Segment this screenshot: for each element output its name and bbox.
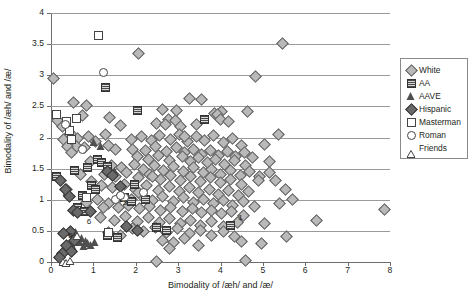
gridline (51, 13, 390, 14)
data-point (76, 118, 85, 127)
data-point (53, 78, 62, 87)
data-point (254, 206, 263, 215)
data-point (264, 144, 273, 153)
x-tick-mark (348, 262, 349, 266)
data-point (165, 124, 174, 133)
data-point (103, 207, 112, 216)
y-tick-label: 0 (0, 257, 44, 266)
data-point (228, 121, 237, 130)
data-point (86, 197, 95, 206)
data-point (201, 99, 210, 108)
diamond-light-icon (405, 64, 416, 75)
data-point (77, 212, 86, 221)
legend-item-hispanic[interactable]: Hispanic (405, 102, 463, 115)
data-point (278, 134, 287, 143)
data-point (258, 180, 267, 189)
data-point (316, 220, 325, 229)
filled-triangle-icon (405, 90, 416, 101)
x-tick-label: 3 (163, 266, 193, 275)
y-tick-mark (47, 200, 51, 201)
filled-diamond-icon (405, 103, 416, 114)
data-point (117, 237, 126, 246)
x-tick-mark (305, 262, 306, 266)
open-triangle-icon (405, 142, 416, 153)
data-point (198, 245, 207, 254)
data-point (95, 189, 104, 198)
open-circle-icon (405, 129, 416, 140)
legend-label: Friends (419, 143, 447, 153)
x-tick-mark (390, 262, 391, 266)
x-tick-label: 6 (290, 266, 320, 275)
data-point (292, 199, 301, 208)
data-point (98, 35, 107, 44)
y-tick-mark (47, 231, 51, 232)
x-tick-label: 8 (375, 266, 405, 275)
legend-item-roman[interactable]: Roman (405, 128, 463, 141)
x-tick-mark (51, 262, 52, 266)
data-point (248, 191, 257, 200)
data-point (90, 211, 99, 220)
legend-label: White (419, 65, 440, 75)
data-point (269, 172, 278, 181)
data-point (211, 235, 220, 244)
data-point (152, 176, 161, 185)
legend-item-aa[interactable]: AA (405, 76, 463, 89)
legend-item-white[interactable]: White (405, 63, 463, 76)
data-point (95, 242, 103, 250)
data-point (282, 43, 291, 52)
legend: WhiteAAAAVEHispanicMastermanRomanFriends (400, 58, 468, 159)
data-point (87, 167, 96, 176)
data-point (247, 111, 256, 120)
legend-item-masterman[interactable]: Masterman (405, 115, 463, 128)
data-point (71, 152, 80, 161)
data-point (86, 105, 95, 114)
x-tick-label: 4 (206, 266, 236, 275)
point-annotation: 5 (68, 232, 72, 240)
y-tick-mark (47, 138, 51, 139)
data-point (74, 170, 83, 179)
data-point (166, 230, 175, 239)
data-point (264, 223, 273, 232)
data-point (137, 230, 146, 239)
data-point (143, 192, 152, 201)
data-point (108, 232, 117, 241)
point-annotation: 6 (87, 218, 91, 226)
y-tick-label: 4 (0, 8, 44, 17)
data-point (384, 209, 393, 218)
plot-area: 1356 (51, 13, 390, 262)
data-point (138, 53, 147, 62)
y-tick-mark (47, 44, 51, 45)
data-point (65, 124, 74, 133)
legend-label: Hispanic (419, 104, 451, 114)
legend-label: Roman (419, 130, 446, 140)
x-tick-label: 1 (78, 266, 108, 275)
x-tick-label: 7 (333, 266, 363, 275)
data-point (120, 125, 129, 134)
data-point (241, 241, 250, 250)
data-point (230, 225, 239, 234)
x-tick-mark (263, 262, 264, 266)
data-point (176, 110, 185, 119)
x-tick-label: 0 (36, 266, 66, 275)
data-point (261, 243, 270, 252)
data-point (184, 136, 193, 145)
x-tick-label: 5 (248, 266, 278, 275)
data-point (169, 248, 178, 257)
scatter-chart-figure: 1356 00.511.522.533.54012345678 Bimodali… (0, 0, 472, 297)
data-point (115, 149, 124, 158)
x-tick-mark (178, 262, 179, 266)
x-axis-label: Bimodality of /æh/ and /æ/ (51, 280, 390, 290)
data-point (77, 230, 86, 248)
point-annotation: 1 (238, 214, 242, 222)
x-tick-mark (221, 262, 222, 266)
data-point (101, 146, 109, 154)
data-point (279, 203, 288, 212)
y-tick-mark (47, 169, 51, 170)
data-point (82, 149, 91, 158)
legend-label: AA (419, 78, 430, 88)
legend-item-aave[interactable]: AAVE (405, 89, 463, 102)
checkered-square-icon (405, 77, 416, 88)
y-tick-mark (47, 75, 51, 76)
legend-item-friends[interactable]: Friends (405, 141, 463, 154)
y-tick-mark (47, 13, 51, 14)
